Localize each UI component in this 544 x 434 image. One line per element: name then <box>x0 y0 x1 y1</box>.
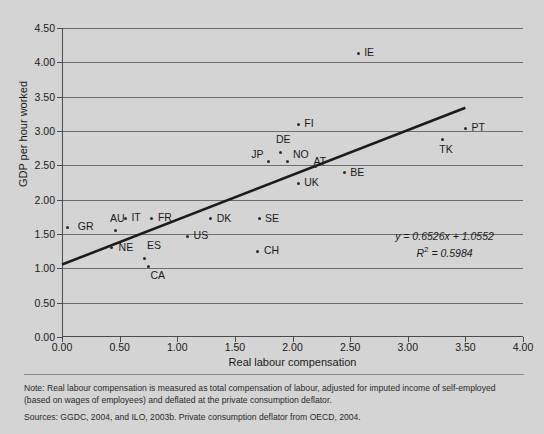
y-tick-text: 3.00 <box>3 126 55 136</box>
x-tick-label-2.00: 2.00 <box>263 341 323 353</box>
y-tick-label-3.00: 3.00 <box>0 126 55 136</box>
data-point-label-AU: AU <box>110 213 125 224</box>
regression-equation: y = 0.6526x + 1.0552 <box>377 230 512 243</box>
chart-figure: GDP per hour worked 0.000.501.001.502.00… <box>0 0 544 434</box>
footnote-divider <box>24 374 524 375</box>
data-point-label-NO: NO <box>293 149 309 160</box>
y-tick-label-2.00: 2.00 <box>0 195 55 205</box>
y-tick-label-1.00: 1.00 <box>0 263 55 273</box>
data-point-label-DK: DK <box>217 213 232 224</box>
data-point-label-UK: UK <box>304 177 319 188</box>
r-squared-number: = 0.5984 <box>431 247 472 259</box>
regression-annotation: y = 0.6526x + 1.0552 R2 = 0.5984 <box>377 230 512 260</box>
footnote-note: Note: Real labour compensation is measur… <box>24 383 524 406</box>
data-point-IE <box>357 52 360 55</box>
x-tick-label-1.50: 1.50 <box>205 341 265 353</box>
y-tick-label-4.00: 4.00 <box>0 57 55 67</box>
data-point-label-GR: GR <box>78 221 94 232</box>
x-axis-title: Real labour compensation <box>62 356 523 368</box>
data-point-label-TK: TK <box>439 144 452 155</box>
data-point-label-FR: FR <box>158 212 172 223</box>
y-tick-label-2.50: 2.50 <box>0 160 55 170</box>
y-tick-text: 2.00 <box>3 195 55 205</box>
y-tick-label-1.50: 1.50 <box>0 229 55 239</box>
data-point-label-IE: IE <box>364 47 374 58</box>
y-tick-label-4.50: 4.50 <box>0 23 55 33</box>
data-point-label-DE: DE <box>276 134 291 145</box>
data-point-FI <box>297 123 300 126</box>
r-squared-value: R2 = 0.5984 <box>377 243 512 260</box>
x-tick-label-3.50: 3.50 <box>435 341 495 353</box>
data-point-label-PT: PT <box>471 122 484 133</box>
data-point-label-AT: AT <box>314 156 327 167</box>
y-tick-text: 2.50 <box>3 160 55 170</box>
data-point-label-CA: CA <box>150 270 165 281</box>
data-point-CA <box>147 265 150 268</box>
data-point-label-CH: CH <box>264 245 279 256</box>
y-tick-text: 1.00 <box>3 263 55 273</box>
data-point-US <box>186 235 189 238</box>
data-point-label-FI: FI <box>304 118 313 129</box>
footnote-block: Note: Real labour compensation is measur… <box>24 383 524 430</box>
data-point-label-JP: JP <box>251 149 263 160</box>
y-tick-label-3.50: 3.50 <box>0 92 55 102</box>
x-tick-label-1.00: 1.00 <box>147 341 207 353</box>
footnote-sources: Sources: GGDC, 2004, and ILO, 2003b. Pri… <box>24 412 524 424</box>
data-point-label-ES: ES <box>147 240 161 251</box>
data-point-label-SE: SE <box>265 213 279 224</box>
data-point-AU <box>114 229 117 232</box>
x-tick-label-4.00: 4.00 <box>493 341 544 353</box>
x-tick-label-3.00: 3.00 <box>378 341 438 353</box>
y-tick-text: 4.50 <box>3 23 55 33</box>
y-tick-label-0.50: 0.50 <box>0 298 55 308</box>
r-squared-exponent: 2 <box>424 245 428 254</box>
x-tick-label-0.00: 0.00 <box>32 341 92 353</box>
data-point-UK <box>297 182 300 185</box>
data-point-GR <box>66 226 69 229</box>
x-tick-label-2.50: 2.50 <box>320 341 380 353</box>
plot-area <box>62 28 523 337</box>
r-squared-label: R <box>416 247 424 259</box>
x-tick-label-0.50: 0.50 <box>90 341 150 353</box>
data-point-label-IT: IT <box>131 212 140 223</box>
y-tick-text: 1.50 <box>3 229 55 239</box>
y-tick-text: 0.50 <box>3 298 55 308</box>
data-point-PT <box>464 127 467 130</box>
data-point-label-US: US <box>194 230 209 241</box>
y-tick-text: 4.00 <box>3 57 55 67</box>
data-point-label-BE: BE <box>350 167 364 178</box>
data-point-label-NE: NE <box>119 242 134 253</box>
y-tick-text: 3.50 <box>3 92 55 102</box>
